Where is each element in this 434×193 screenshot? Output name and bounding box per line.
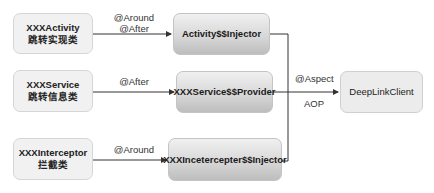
aspect-label: @Aspect (295, 73, 334, 84)
source-box-service: XXXService 跳转信息类 (13, 70, 93, 112)
target-box-deeplinkclient: DeepLinkClient (340, 71, 423, 113)
aop-label: AOP (304, 98, 324, 109)
source-desc: 跳转信息类 (28, 91, 78, 103)
generated-name: XXXIncetercepter$$Injector (163, 154, 287, 166)
generated-box-interceptor-injector: XXXIncetercepter$$Injector (168, 138, 282, 181)
edge-label-line: @After (104, 23, 164, 34)
edge-label-service: @After (104, 76, 164, 87)
source-name: XXXService (27, 79, 80, 91)
source-desc: 拦截类 (38, 159, 68, 171)
target-name: DeepLinkClient (349, 86, 413, 98)
generated-box-activity-injector: Activity$$Injector (173, 13, 270, 55)
edge-label-interceptor: @Around (104, 144, 164, 155)
edge-label-line: @After (104, 76, 164, 87)
source-box-activity: XXXActivity 跳转实现类 (13, 13, 93, 54)
edge-label-activity: @Around @After (104, 12, 164, 34)
source-name: XXXInterceptor (19, 147, 88, 159)
generated-name: XXXService$$Provider (174, 86, 276, 98)
generated-name: Activity$$Injector (182, 28, 261, 40)
generated-box-service-provider: XXXService$$Provider (176, 71, 273, 113)
edge-label-line: @Around (104, 12, 164, 23)
edge-label-line: @Around (104, 144, 164, 155)
source-box-interceptor: XXXInterceptor 拦截类 (13, 138, 93, 180)
source-desc: 跳转实现类 (28, 34, 78, 46)
source-name: XXXActivity (26, 22, 79, 34)
